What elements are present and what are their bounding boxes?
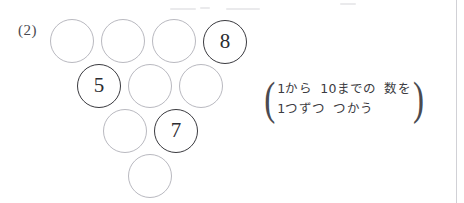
puzzle-circle-filled[interactable]: 8 xyxy=(203,20,247,64)
open-paren-glyph: ( xyxy=(264,77,275,121)
instruction-text-block: 1から 10までの 数を 1つずつ つかう xyxy=(275,77,413,121)
puzzle-circle-empty[interactable] xyxy=(128,154,172,198)
scan-artifact xyxy=(226,8,260,10)
instruction-note: ( 1から 10までの 数を 1つずつ つかう ) xyxy=(260,77,428,121)
puzzle-circle-value: 7 xyxy=(171,120,182,141)
puzzle-circle-empty[interactable] xyxy=(179,64,223,108)
scan-artifact xyxy=(170,8,196,10)
puzzle-circle-empty[interactable] xyxy=(152,19,196,63)
worksheet-page: (2) 857 ( 1から 10までの 数を 1つずつ つかう ) xyxy=(0,0,464,203)
puzzle-circle-empty[interactable] xyxy=(103,109,147,153)
scan-artifact xyxy=(200,7,210,9)
puzzle-circle-empty[interactable] xyxy=(50,19,94,63)
page-edge-rule xyxy=(456,0,457,203)
puzzle-circle-empty[interactable] xyxy=(101,19,145,63)
scan-artifact xyxy=(340,3,356,5)
puzzle-circle-filled[interactable]: 7 xyxy=(154,109,198,153)
puzzle-circle-value: 8 xyxy=(220,31,231,52)
puzzle-circle-empty[interactable] xyxy=(128,64,172,108)
puzzle-circle-value: 5 xyxy=(94,75,105,96)
close-paren-glyph: ) xyxy=(413,77,424,121)
puzzle-circle-filled[interactable]: 5 xyxy=(77,64,121,108)
problem-number-label: (2) xyxy=(18,22,37,39)
instruction-line-1: 1から 10までの 数を xyxy=(277,79,411,99)
instruction-line-2: 1つずつ つかう xyxy=(277,99,411,119)
